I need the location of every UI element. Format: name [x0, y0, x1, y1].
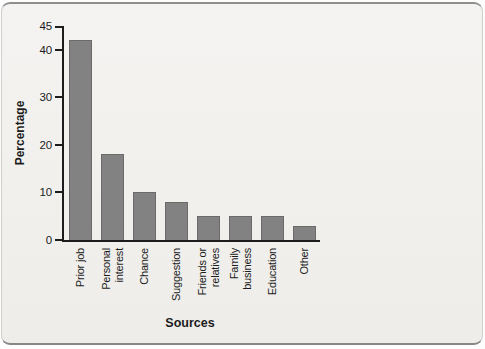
plot-area: 01020304045Prior jobPersonal interestCha…: [62, 26, 320, 242]
bar: [165, 202, 188, 240]
y-tick-mark: [55, 96, 62, 98]
y-tick-label: 45: [24, 20, 52, 32]
bar: [69, 40, 92, 240]
scanned-figure-page: Percentage 01020304045Prior jobPersonal …: [0, 0, 485, 349]
y-tick-label: 0: [24, 234, 52, 246]
y-tick-label: 20: [24, 139, 52, 151]
x-axis-title: Sources: [62, 316, 318, 330]
y-tick-mark: [55, 49, 62, 51]
bar: [133, 192, 156, 240]
y-tick-label: 10: [24, 186, 52, 198]
bar: [101, 154, 124, 240]
y-tick-mark: [55, 144, 62, 146]
bar-chart: Percentage 01020304045Prior jobPersonal …: [0, 0, 485, 349]
y-tick-mark: [55, 191, 62, 193]
y-tick-label: 30: [24, 91, 52, 103]
bar: [197, 216, 220, 240]
y-tick-label: 40: [24, 44, 52, 56]
y-tick-mark: [55, 239, 62, 241]
bar: [229, 216, 252, 240]
bar: [293, 226, 316, 240]
bar: [261, 216, 284, 240]
y-tick-mark: [55, 26, 62, 28]
